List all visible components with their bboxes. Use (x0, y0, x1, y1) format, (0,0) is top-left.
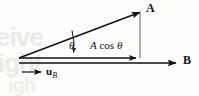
vector-a-arrow (19, 12, 140, 58)
unit-vector-subscript: B (52, 71, 57, 80)
vector-projection-figure: eive ight igh (0, 0, 199, 96)
projection-magnitude: A (90, 39, 97, 51)
angle-theta-label: θ (69, 40, 74, 51)
vector-a-label: A (146, 2, 155, 14)
unit-vector-label: uB (46, 66, 57, 80)
projection-theta: θ (117, 39, 122, 51)
projection-cos: cos (99, 39, 114, 51)
projection-label: A cos θ (90, 40, 122, 51)
vector-b-label: B (183, 54, 191, 66)
